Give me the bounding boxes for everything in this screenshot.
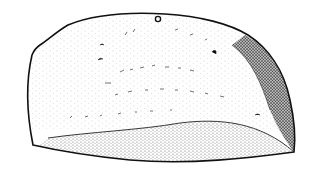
artifact-illustration xyxy=(0,0,313,175)
artifact-drawing xyxy=(0,0,313,175)
